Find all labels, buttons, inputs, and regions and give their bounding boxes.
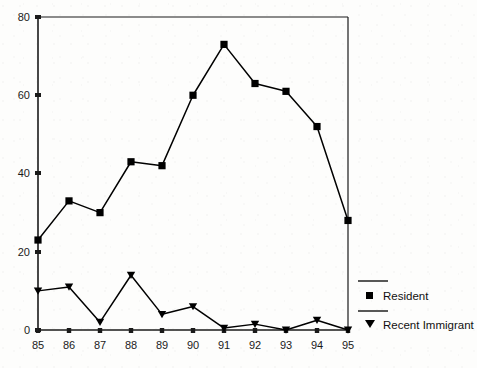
x-tick-label: 89 — [156, 339, 168, 351]
legend-label-recent-immigrant: Recent Immigrant — [383, 319, 475, 331]
legend-label-resident: Resident — [383, 290, 429, 302]
y-tick-label-80: 80 — [18, 11, 30, 23]
y-tick-label-0: 0 — [24, 324, 30, 336]
series-line — [38, 275, 348, 330]
x-tick-label: 88 — [125, 339, 137, 351]
series-recent-immigrant — [34, 272, 352, 334]
x-tick-label: 92 — [249, 339, 261, 351]
x-tick-label: 91 — [218, 339, 230, 351]
x-tick-label: 87 — [94, 339, 106, 351]
y-tick-label-20: 20 — [18, 246, 30, 258]
square-marker-icon — [313, 123, 320, 130]
y-tick-mark-20 — [35, 250, 41, 254]
square-marker-icon — [127, 158, 134, 165]
triangle-down-marker-icon — [158, 311, 166, 318]
series-resident — [34, 41, 351, 244]
y-axis-tick-labels: 0 20 40 60 80 — [18, 11, 30, 336]
square-marker-icon — [189, 92, 196, 99]
x-tick-mark — [315, 328, 319, 333]
square-marker-icon — [251, 80, 258, 87]
x-tick-mark — [253, 328, 257, 333]
square-marker-icon — [282, 88, 289, 95]
x-tick-mark — [129, 328, 133, 333]
x-tick-mark — [36, 328, 40, 333]
y-tick-mark-80 — [35, 15, 41, 19]
x-tick-label: 85 — [32, 339, 44, 351]
x-tick-mark — [67, 328, 71, 333]
square-marker-icon — [158, 162, 165, 169]
square-marker-icon — [344, 217, 351, 224]
x-tick-label: 94 — [311, 339, 323, 351]
y-tick-mark-60 — [35, 93, 41, 97]
x-tick-label: 86 — [63, 339, 75, 351]
triangle-down-marker-icon — [96, 319, 104, 326]
y-tick-mark-40 — [35, 171, 41, 175]
y-tick-label-60: 60 — [18, 89, 30, 101]
x-tick-label: 95 — [342, 339, 354, 351]
x-axis-tick-labels: 8586878889909192939495 — [32, 339, 354, 351]
square-marker-icon — [220, 41, 227, 48]
line-chart: 0 20 40 60 80 8586878889909192939495 Res… — [0, 0, 477, 368]
x-tick-mark — [191, 328, 195, 333]
chart-figure: 0 20 40 60 80 8586878889909192939495 Res… — [0, 0, 477, 368]
legend-square-marker-icon — [366, 292, 373, 299]
y-tick-label-40: 40 — [18, 167, 30, 179]
legend-triangle-down-marker-icon — [365, 320, 375, 328]
square-marker-icon — [96, 209, 103, 216]
x-tick-mark — [98, 328, 102, 333]
x-tick-label: 93 — [280, 339, 292, 351]
square-marker-icon — [65, 197, 72, 204]
plot-frame — [38, 17, 348, 330]
x-tick-label: 90 — [187, 339, 199, 351]
square-marker-icon — [34, 236, 41, 243]
x-tick-mark — [160, 328, 164, 333]
series-line — [38, 44, 348, 240]
chart-legend: Resident Recent Immigrant — [358, 281, 475, 331]
